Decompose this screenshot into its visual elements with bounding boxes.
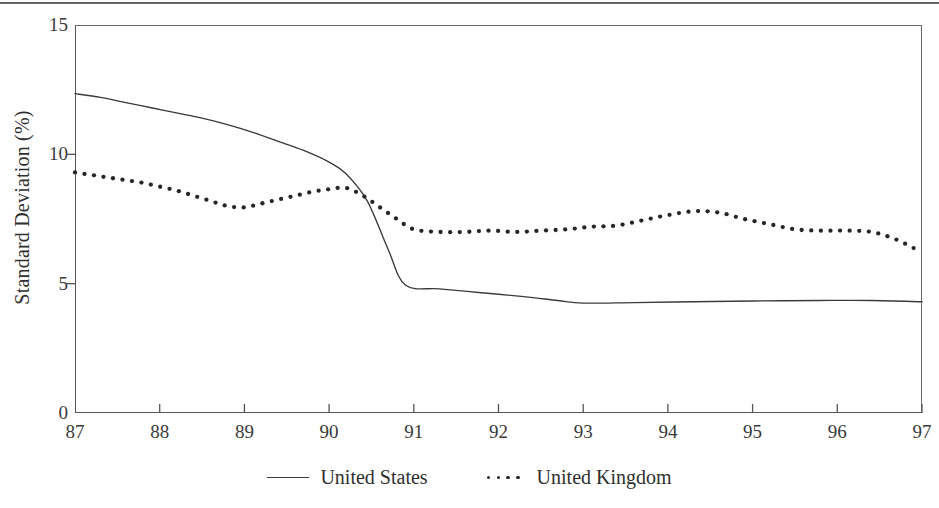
x-tick-label: 95	[730, 421, 776, 442]
legend-item-united-kingdom: United Kingdom	[484, 466, 672, 489]
series-line-united-states	[75, 94, 922, 304]
x-tick-label: 96	[814, 421, 860, 442]
legend-label-united-kingdom: United Kingdom	[537, 466, 672, 489]
x-tick-label: 91	[391, 421, 437, 442]
x-tick-label: 90	[306, 421, 352, 442]
x-tick-label: 94	[645, 421, 691, 442]
legend-label-united-states: United States	[320, 466, 427, 489]
x-tick-label: 87	[52, 421, 98, 442]
series-dots-united-kingdom	[73, 170, 916, 250]
chart-legend: United States United Kingdom	[0, 466, 939, 489]
x-tick-label: 97	[899, 421, 939, 442]
x-tick-label: 92	[476, 421, 522, 442]
dotted-line-swatch-icon	[484, 471, 526, 485]
legend-item-united-states: United States	[267, 466, 427, 489]
axis-tick-marks	[66, 154, 922, 413]
data-series-layer	[73, 94, 922, 304]
x-tick-label: 88	[137, 421, 183, 442]
x-tick-label: 93	[560, 421, 606, 442]
chart-figure: 051015 Standard Deviation (%) United Sta…	[0, 0, 939, 508]
solid-line-swatch-icon	[267, 471, 309, 485]
x-tick-label: 89	[221, 421, 267, 442]
